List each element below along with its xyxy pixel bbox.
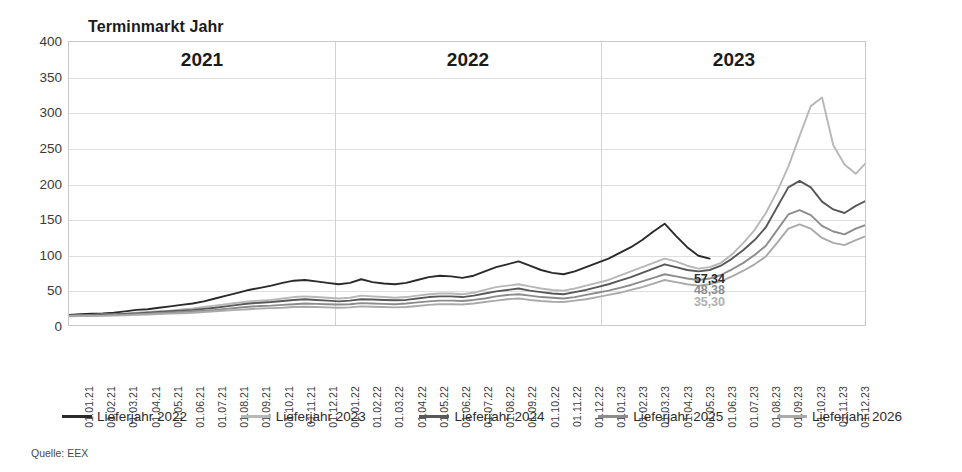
year-band-label: 2023	[601, 49, 865, 71]
y-axis-tick: 200	[16, 176, 62, 191]
legend-item[interactable]: Lieferjahr 2024	[419, 409, 544, 424]
series-line	[69, 224, 710, 315]
chart-legend: Lieferjahr 2022Lieferjahr 2023Lieferjahr…	[62, 405, 902, 427]
legend-swatch-icon	[777, 415, 807, 418]
y-axis-tick: 400	[16, 34, 62, 49]
y-axis-tick: 50	[16, 283, 62, 298]
legend-item[interactable]: Lieferjahr 2026	[777, 409, 902, 424]
series-line	[69, 224, 865, 316]
source-note: Quelle: EEX	[31, 447, 88, 459]
legend-swatch-icon	[241, 415, 271, 418]
series-line	[69, 98, 865, 316]
legend-label: Lieferjahr 2023	[276, 409, 366, 424]
year-band-label: 2022	[335, 49, 601, 71]
y-axis-tick: 350	[16, 69, 62, 84]
series-line	[69, 181, 865, 316]
plot-inner: 202120222023	[69, 42, 865, 325]
legend-label: Lieferjahr 2025	[633, 409, 723, 424]
y-axis: 400350300250200150100500	[12, 41, 62, 326]
chart-page: Terminmarkt Jahr 40035030025020015010050…	[0, 0, 962, 472]
legend-label: Lieferjahr 2024	[454, 409, 544, 424]
legend-item[interactable]: Lieferjahr 2023	[241, 409, 366, 424]
y-axis-tick: 100	[16, 247, 62, 262]
y-axis-tick: 0	[16, 319, 62, 334]
year-band-label: 2021	[69, 49, 335, 71]
legend-swatch-icon	[598, 415, 628, 418]
legend-item[interactable]: Lieferjahr 2022	[62, 409, 187, 424]
y-axis-tick: 250	[16, 140, 62, 155]
end-value-label: 35,30	[694, 295, 725, 309]
legend-label: Lieferjahr 2022	[97, 409, 187, 424]
plot-area: 202120222023	[68, 41, 866, 326]
y-axis-tick: 300	[16, 105, 62, 120]
legend-item[interactable]: Lieferjahr 2025	[598, 409, 723, 424]
page-title: Terminmarkt Jahr	[88, 18, 224, 36]
series-line	[69, 210, 865, 316]
y-axis-tick: 150	[16, 212, 62, 227]
legend-swatch-icon	[62, 415, 92, 418]
x-axis: 01.01.2101.02.2101.03.2101.04.2101.05.21…	[68, 330, 866, 392]
series-lines	[69, 42, 865, 325]
legend-swatch-icon	[419, 415, 449, 418]
legend-label: Lieferjahr 2026	[812, 409, 902, 424]
